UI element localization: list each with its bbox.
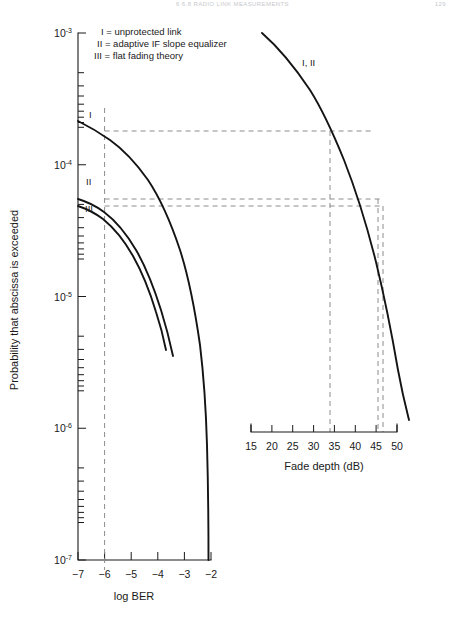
inset-x-tick-label: 30 [308, 440, 320, 452]
curve-tag-ii: II [86, 176, 91, 187]
x-tick-label: −5 [125, 568, 137, 580]
y-tick-label: 10-4 [54, 159, 72, 171]
inset-x-tick-label: 40 [349, 440, 361, 452]
inset-x-tick-label: 45 [370, 440, 382, 452]
y-axis-title: Probability that abscissa is exceeded [8, 210, 20, 390]
legend-item-0: I = unprotected link [101, 26, 182, 37]
inset-axis-spine [251, 424, 397, 432]
inset-x-ticks [251, 425, 397, 432]
inset-x-tick-labels: 15 20 25 30 35 40 45 50 [245, 440, 403, 452]
curve-i [78, 121, 209, 560]
curve-tag-i: I [89, 109, 92, 120]
main-x-ticks [78, 552, 211, 560]
x-tick-label: −2 [205, 568, 217, 580]
y-tick-label: 10-3 [54, 27, 72, 39]
curve-tag-inset: I, II [302, 57, 315, 68]
legend: I = unprotected link II = adaptive IF sl… [94, 26, 227, 61]
main-curves [78, 121, 209, 560]
inset-x-tick-label: 35 [329, 440, 341, 452]
curve-iii [78, 206, 166, 350]
inset-x-tick-label: 50 [391, 440, 403, 452]
figure-container: 129 6 6.8 RADIO LINK MEASUREMENTS [0, 0, 451, 619]
main-x-tick-labels: −7 −6 −5 −4 −3 −2 [72, 568, 217, 580]
inset-x-tick-label: 25 [287, 440, 299, 452]
y-tick-label: 10-5 [54, 291, 72, 303]
y-tick-label: 10-6 [54, 422, 72, 434]
x-tick-label: −3 [178, 568, 190, 580]
main-y-ticks [78, 33, 86, 560]
x-axis-title: log BER [114, 590, 154, 602]
x-tick-label: −4 [152, 568, 164, 580]
y-tick-label: 10-7 [54, 554, 72, 566]
inset-x-tick-label: 20 [266, 440, 278, 452]
inset-x-tick-label: 15 [245, 440, 257, 452]
curve-inset-i-ii [262, 33, 409, 420]
x-tick-label: −7 [72, 568, 84, 580]
curve-ii [78, 199, 173, 356]
inset-axes: 15 20 25 30 35 40 45 50 Fade depth (dB) [245, 424, 403, 472]
inset-x-axis-title: Fade depth (dB) [284, 460, 364, 472]
legend-item-1: II = adaptive IF slope equalizer [97, 38, 227, 49]
curve-tag-iii: III [85, 203, 93, 214]
chart-svg: 10-3 10-4 10-5 10-6 10-7 −7 −6 −5 −4 −3 … [0, 0, 451, 619]
main-y-tick-labels: 10-3 10-4 10-5 10-6 10-7 [54, 27, 72, 566]
legend-item-2: III = flat fading theory [94, 50, 183, 61]
